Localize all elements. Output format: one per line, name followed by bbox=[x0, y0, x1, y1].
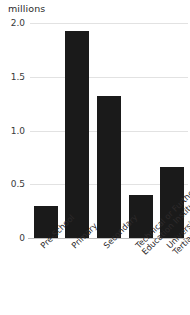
y-tick-label: 0.5 bbox=[0, 179, 25, 189]
bar-chart: millions 00.51.01.52.0 Pre-SchoolPrimary… bbox=[0, 0, 190, 315]
y-tick-label: 2.0 bbox=[0, 18, 25, 28]
bar bbox=[65, 31, 89, 238]
bar-series bbox=[30, 0, 188, 315]
bar bbox=[97, 96, 121, 238]
y-tick-label: 0 bbox=[0, 233, 25, 243]
y-tick-label: 1.5 bbox=[0, 72, 25, 82]
y-tick-label: 1.0 bbox=[0, 126, 25, 136]
